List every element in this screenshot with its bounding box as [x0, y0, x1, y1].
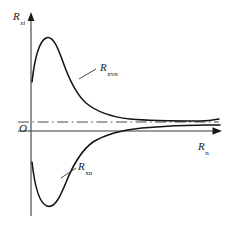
curve-lower-label-base: R [78, 160, 85, 172]
plot-canvas [0, 0, 237, 225]
curve-upper-label: Rxvn [100, 62, 117, 76]
y-axis-arrowhead [28, 12, 35, 21]
curve-lower-label-subscript: xn [85, 169, 92, 177]
figure-container: Rxi Rn O Rxvn Rxn [0, 0, 237, 225]
curve-upper-rxvn [32, 38, 219, 121]
x-axis-label: Rn [198, 141, 208, 155]
y-axis-label-subscript: xi [20, 19, 25, 27]
x-axis-arrowhead [213, 127, 223, 134]
leader-line-upper [79, 69, 96, 79]
origin-label: O [19, 123, 27, 134]
y-axis-label-base: R [13, 10, 20, 22]
y-axis-label: Rxi [13, 11, 25, 25]
curve-upper-label-subscript: xvn [107, 70, 118, 78]
curve-lower-label: Rxn [78, 161, 92, 175]
curve-upper-label-base: R [100, 61, 107, 73]
x-axis-label-base: R [198, 140, 205, 152]
x-axis-label-subscript: n [205, 149, 209, 157]
curve-lower-rxn [32, 125, 220, 206]
